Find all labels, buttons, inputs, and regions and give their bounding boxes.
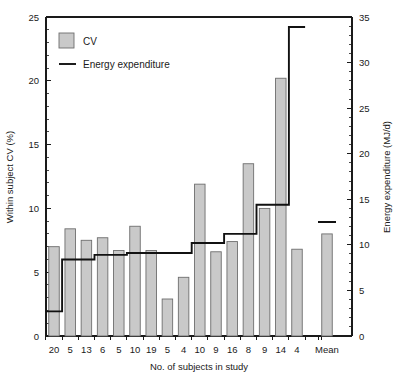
chart-legend: CV Energy expenditure [59,33,170,70]
bottom-tick-label-0: 20 [49,344,60,355]
legend-swatch-cv [59,33,74,48]
left-tick-label-5: 5 [34,267,39,278]
left-tick-label-0: 0 [34,331,39,342]
bar-2 [81,240,92,336]
bottom-tick-label-8: 4 [181,344,186,355]
bar-10 [211,252,222,336]
right-tick-label-25: 25 [359,103,370,114]
bottom-tick-label-4: 5 [116,344,121,355]
chart-figure: 0510152025 05101520253035 20513651019541… [0,0,399,380]
bottom-tick-label-14: 14 [276,344,287,355]
bottom-axis-tick-labels: 20513651019541091689144Mean [49,344,339,355]
left-tick-label-10: 10 [28,203,39,214]
bar-16 [322,234,333,336]
right-tick-label-30: 30 [359,57,370,68]
bottom-tick-label-1: 5 [68,344,73,355]
right-axis-title: Energy expenditure (MJ/d) [381,121,392,233]
bottom-tick-label-13: 9 [262,344,267,355]
right-tick-label-10: 10 [359,239,370,250]
bottom-axis-title: No. of subjects in study [150,361,248,372]
bottom-tick-label-6: 19 [146,344,157,355]
bar-12 [243,164,254,336]
bottom-tick-label-12: 8 [246,344,251,355]
left-tick-label-20: 20 [28,75,39,86]
bar-5 [130,226,141,336]
bar-13 [259,208,270,336]
legend-label-cv: CV [83,36,97,47]
bottom-tick-label-11: 16 [227,344,238,355]
bottom-tick-label-9: 10 [195,344,206,355]
bar-7 [162,299,173,336]
left-axis-title: Within subject CV (%) [4,131,15,223]
bottom-tick-label-10: 9 [213,344,218,355]
left-axis-tick-labels: 0510152025 [28,12,39,342]
chart-svg: 0510152025 05101520253035 20513651019541… [0,0,399,380]
bar-14 [276,78,287,336]
left-tick-label-25: 25 [28,12,39,23]
bar-8 [178,277,189,336]
right-axis-tick-labels: 05101520253035 [359,12,370,342]
right-tick-label-15: 15 [359,194,370,205]
right-tick-label-0: 0 [359,331,364,342]
bar-11 [227,242,238,336]
left-tick-label-15: 15 [28,139,39,150]
right-tick-label-5: 5 [359,285,364,296]
bar-15 [292,249,303,336]
bottom-tick-label-5: 10 [130,344,141,355]
bottom-tick-label-7: 5 [165,344,170,355]
right-tick-label-35: 35 [359,12,370,23]
bottom-tick-label-2: 13 [81,344,92,355]
bar-4 [114,251,125,336]
bottom-tick-label-15: 4 [294,344,299,355]
right-tick-label-20: 20 [359,148,370,159]
bottom-tick-label-3: 6 [100,344,105,355]
bar-1 [65,229,76,336]
bottom-tick-label-16: Mean [315,344,339,355]
bar-3 [97,238,108,336]
legend-label-energy-expenditure: Energy expenditure [83,59,170,70]
right-axis-ticks [347,17,352,336]
bar-6 [146,251,157,336]
bar-9 [195,184,206,336]
bar-0 [49,247,60,336]
